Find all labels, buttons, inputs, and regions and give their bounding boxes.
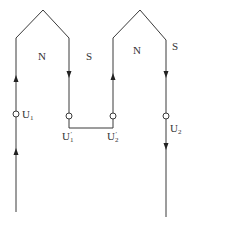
terminal-label-u2: U2 bbox=[170, 123, 181, 136]
arrow-down-icon bbox=[164, 71, 169, 78]
u1-sub: 1 bbox=[30, 114, 34, 122]
terminal-label-u1-prime: U1′ bbox=[62, 131, 72, 144]
terminal-u2-prime bbox=[110, 113, 116, 119]
arrow-up-icon bbox=[14, 148, 19, 155]
arrow-down-icon bbox=[67, 71, 72, 78]
u2-sub: 2 bbox=[178, 128, 182, 136]
pole-label-s-right: S bbox=[172, 41, 178, 52]
terminal-u1-prime bbox=[66, 113, 72, 119]
u2-base: U bbox=[170, 122, 178, 134]
terminal-u1 bbox=[13, 111, 19, 117]
diagram-lines bbox=[0, 0, 228, 237]
u2p-base: U bbox=[107, 130, 115, 142]
terminal-u2 bbox=[163, 113, 169, 119]
terminal-label-u1: U1 bbox=[22, 109, 33, 122]
arrow-up-icon bbox=[14, 75, 19, 82]
pole-label-n-right: N bbox=[133, 45, 141, 56]
u1p-base: U bbox=[62, 130, 70, 142]
u1p-prime: ′ bbox=[70, 130, 72, 138]
pole-label-n-left: N bbox=[38, 51, 46, 62]
coil-2-wire bbox=[113, 10, 166, 217]
winding-diagram: N S N S U1 U1′ U2′ U2 bbox=[0, 0, 228, 237]
u1-base: U bbox=[22, 108, 30, 120]
u2p-prime: ′ bbox=[115, 130, 117, 138]
arrow-up-icon bbox=[111, 73, 116, 80]
pole-label-s-left: S bbox=[86, 51, 92, 62]
terminal-label-u2-prime: U2′ bbox=[107, 131, 117, 144]
arrow-down-icon bbox=[164, 143, 169, 150]
